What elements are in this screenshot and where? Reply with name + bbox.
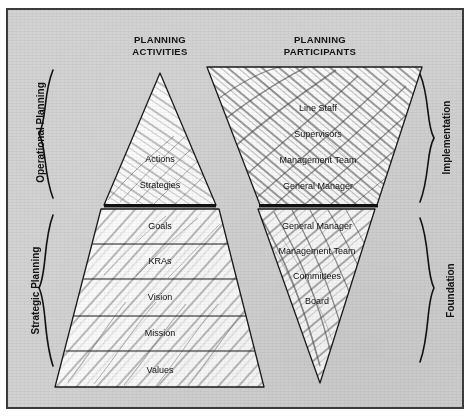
activities-level-strategies: Strategies bbox=[140, 180, 181, 190]
side-label-foundation: Foundation bbox=[445, 221, 456, 361]
header-participants-line1: PLANNING bbox=[294, 34, 346, 45]
cropped-caption-sliver bbox=[0, 0, 472, 6]
diagram-scene: PLANNING ACTIVITIES PLANNING PARTICIPANT… bbox=[0, 0, 472, 417]
header-planning-participants: PLANNING PARTICIPANTS bbox=[250, 34, 390, 57]
participants-level-general-manager: General Manager bbox=[283, 181, 353, 191]
participants-foundation-committees: Committees bbox=[293, 271, 341, 281]
activities-divider-bar bbox=[104, 204, 216, 207]
participants-level-line-staff: Line Staff bbox=[299, 103, 337, 113]
activities-level-vision: Vision bbox=[148, 292, 172, 302]
participants-level-management-team: Management Team bbox=[280, 155, 357, 165]
header-activities-line2: ACTIVITIES bbox=[132, 46, 187, 57]
side-label-strategic-planning: Strategic Planning bbox=[30, 221, 41, 361]
participants-foundation-general-manager: General Manager bbox=[282, 221, 352, 231]
side-label-operational-planning: Operational Planning bbox=[35, 63, 46, 203]
header-activities-line1: PLANNING bbox=[134, 34, 186, 45]
right-brace-group bbox=[420, 74, 434, 362]
diagram-plate: PLANNING ACTIVITIES PLANNING PARTICIPANT… bbox=[6, 8, 464, 409]
pyramids-svg bbox=[8, 10, 464, 409]
activities-level-goals: Goals bbox=[148, 221, 172, 231]
activities-level-values: Values bbox=[147, 365, 174, 375]
participants-foundation-management-team: Management Team bbox=[279, 246, 356, 256]
brace-foundation bbox=[420, 218, 434, 362]
activities-level-actions: Actions bbox=[145, 154, 175, 164]
participants-foundation-board: Board bbox=[305, 296, 329, 306]
header-participants-line2: PARTICIPANTS bbox=[284, 46, 356, 57]
participants-level-supervisors: Supervisors bbox=[294, 129, 342, 139]
side-label-implementation: Implementation bbox=[441, 68, 452, 208]
activities-level-mission: Mission bbox=[145, 328, 176, 338]
brace-strategic-planning bbox=[39, 215, 53, 366]
participants-divider-bar bbox=[259, 204, 378, 207]
activities-level-kras: KRAs bbox=[148, 256, 171, 266]
brace-implementation bbox=[420, 74, 434, 202]
header-planning-activities: PLANNING ACTIVITIES bbox=[98, 34, 222, 57]
